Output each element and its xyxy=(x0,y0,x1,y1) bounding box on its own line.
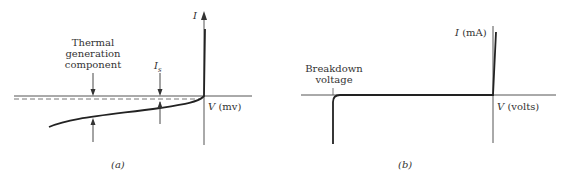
panel-b-x-label: V (volts) xyxy=(497,101,539,112)
breakdown-label-line2: voltage xyxy=(303,74,365,85)
panel-b-caption: (b) xyxy=(398,159,412,170)
panel-a-caption: (a) xyxy=(111,159,125,170)
panel-b-y-unit: (mA) xyxy=(462,27,487,38)
panel-b-x-unit: (volts) xyxy=(507,101,539,112)
panel-a-x-unit: (mv) xyxy=(218,101,241,112)
panel-a-plot xyxy=(14,11,252,145)
panel-b-iv-curve xyxy=(333,32,496,144)
is-arrow-up-icon xyxy=(158,101,163,108)
thermal-label-line2: generation xyxy=(52,48,134,59)
thermal-label-line3: component xyxy=(52,59,134,70)
panel-b-y-var: I xyxy=(455,27,459,38)
panel-a-x-label: V (mv) xyxy=(208,101,241,112)
saturation-current-label: Is xyxy=(154,60,162,76)
is-arrow-down-icon xyxy=(158,89,163,96)
panel-a-y-label: I xyxy=(193,10,197,21)
panel-a-x-var: V xyxy=(208,101,215,112)
thermal-arrow-down-icon xyxy=(91,89,96,96)
panel-b-y-label: I (mA) xyxy=(455,27,487,38)
thermal-label-line1: Thermal xyxy=(52,37,134,48)
is-subscript: s xyxy=(158,66,162,74)
thermal-arrow-up-icon xyxy=(91,118,96,125)
breakdown-voltage-label: Breakdown voltage xyxy=(303,63,365,85)
thermal-generation-label: Thermal generation component xyxy=(52,37,134,70)
panel-b-plot xyxy=(301,26,556,144)
panel-a-y-axis-arrow-icon xyxy=(201,11,207,20)
panel-b-x-var: V xyxy=(497,101,504,112)
breakdown-label-line1: Breakdown xyxy=(303,63,365,74)
